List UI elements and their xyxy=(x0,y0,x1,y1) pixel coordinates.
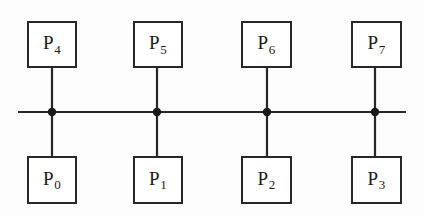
node-p2[interactable]: P2 xyxy=(241,156,292,204)
node-p1[interactable]: P1 xyxy=(133,156,183,204)
junction-2-dot[interactable] xyxy=(263,108,271,116)
node-p2-label: P2 xyxy=(258,169,276,191)
node-p1-label: P1 xyxy=(149,169,167,191)
node-p5-label: P5 xyxy=(149,33,167,55)
junction-1-dot[interactable] xyxy=(153,108,161,116)
node-p6[interactable]: P6 xyxy=(241,21,292,68)
node-p3[interactable]: P3 xyxy=(351,156,402,204)
node-p6-label: P6 xyxy=(258,33,276,55)
junction-3-dot[interactable] xyxy=(371,108,379,116)
node-p7-label: P7 xyxy=(368,33,386,55)
node-p0-label: P0 xyxy=(43,169,61,191)
node-p0[interactable]: P0 xyxy=(27,156,77,204)
node-p4[interactable]: P4 xyxy=(27,21,77,68)
node-p3-label: P3 xyxy=(368,169,386,191)
node-p4-label: P4 xyxy=(43,33,61,55)
node-p5[interactable]: P5 xyxy=(133,21,183,68)
node-p7[interactable]: P7 xyxy=(351,21,402,68)
junction-0-dot[interactable] xyxy=(48,108,56,116)
diagram-canvas: P4P5P6P7P0P1P2P3 xyxy=(0,0,424,216)
